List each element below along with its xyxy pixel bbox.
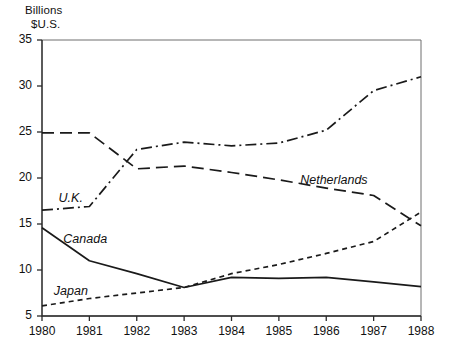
x-tick-label: 1987 bbox=[351, 324, 397, 338]
x-tick-label: 1985 bbox=[256, 324, 302, 338]
y-tick-label: 30 bbox=[8, 78, 32, 92]
x-tick-label: 1988 bbox=[398, 324, 444, 338]
x-tick-label: 1982 bbox=[114, 324, 160, 338]
y-tick-label: 25 bbox=[8, 124, 32, 138]
series-annotation-japan: Japan bbox=[54, 284, 88, 298]
x-tick-label: 1981 bbox=[66, 324, 112, 338]
x-tick-label: 1980 bbox=[19, 324, 65, 338]
x-tick-label: 1986 bbox=[303, 324, 349, 338]
series-annotation-netherlands: Netherlands bbox=[300, 173, 367, 187]
series-annotation-uk: U.K. bbox=[59, 191, 83, 205]
y-tick-label: 10 bbox=[8, 262, 32, 276]
y-tick-label: 15 bbox=[8, 216, 32, 230]
plot-area bbox=[0, 0, 452, 351]
y-tick-label: 35 bbox=[8, 32, 32, 46]
y-tick-label: 5 bbox=[8, 308, 32, 322]
series-line-uk bbox=[42, 77, 421, 210]
series-line-japan bbox=[42, 212, 421, 306]
x-tick-label: 1984 bbox=[209, 324, 255, 338]
series-annotation-canada: Canada bbox=[63, 232, 107, 246]
line-chart: Billions $U.S. 5101520253035 19801981198… bbox=[0, 0, 452, 351]
x-tick-label: 1983 bbox=[161, 324, 207, 338]
y-tick-label: 20 bbox=[8, 170, 32, 184]
